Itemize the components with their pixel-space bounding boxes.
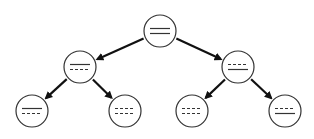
node-circle	[269, 95, 301, 127]
arrow-left-to-left-left	[46, 79, 67, 98]
nodes	[16, 15, 301, 127]
node-circle	[16, 95, 48, 127]
tree-node-right	[222, 51, 254, 83]
tree-node-left-right	[109, 95, 141, 127]
tree-node-right-right	[269, 95, 301, 127]
tree-node-right-left	[176, 95, 208, 127]
arrow-root-to-left	[97, 38, 143, 59]
node-circle	[64, 51, 96, 83]
node-circle	[222, 51, 254, 83]
binary-tree-diagram	[0, 0, 314, 139]
arrow-left-to-left-right	[93, 80, 112, 98]
node-circle	[109, 95, 141, 127]
tree-node-root	[144, 15, 176, 47]
arrow-right-to-right-left	[206, 79, 225, 97]
node-circle	[176, 95, 208, 127]
node-circle	[144, 15, 176, 47]
tree-node-left-left	[16, 95, 48, 127]
tree-node-left	[64, 51, 96, 83]
arrow-root-to-right	[176, 39, 220, 59]
arrow-right-to-right-right	[251, 79, 271, 98]
